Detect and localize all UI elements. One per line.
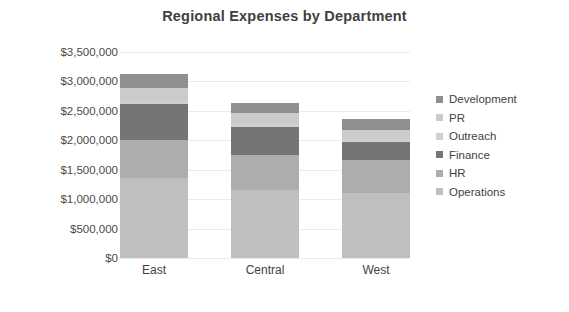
y-axis-tick-label: $2,000,000 [6, 134, 118, 146]
bar-segment-pr[interactable] [231, 113, 299, 124]
bar-segment-hr[interactable] [120, 140, 188, 178]
legend-label: Outreach [449, 130, 496, 142]
legend-swatch-icon [436, 188, 443, 195]
bar-west[interactable] [342, 119, 410, 258]
legend-swatch-icon [436, 96, 443, 103]
y-axis-tick-label: $3,500,000 [6, 46, 118, 58]
legend-label: HR [449, 167, 466, 179]
bar-segment-pr[interactable] [342, 130, 410, 139]
bar-segment-operations[interactable] [120, 178, 188, 258]
bar-segment-operations[interactable] [231, 190, 299, 258]
legend-swatch-icon [436, 151, 443, 158]
bar-segment-hr[interactable] [342, 160, 410, 193]
bar-segment-finance[interactable] [342, 142, 410, 160]
x-axis-label-east: East [109, 263, 199, 277]
gridline [120, 258, 410, 259]
y-axis-tick-label: $1,000,000 [6, 193, 118, 205]
y-axis-tick-label: $500,000 [6, 223, 118, 235]
plot-area [120, 52, 410, 258]
stacked-bar-chart: Regional Expenses by Department $0$500,0… [0, 0, 569, 312]
bar-segment-development[interactable] [120, 74, 188, 87]
bar-segment-pr[interactable] [120, 88, 188, 101]
chart-legend: DevelopmentPROutreachFinanceHROperations [436, 90, 517, 201]
legend-label: Finance [449, 149, 490, 161]
legend-item-finance[interactable]: Finance [436, 146, 517, 165]
bar-segment-development[interactable] [342, 119, 410, 129]
legend-item-development[interactable]: Development [436, 90, 517, 109]
y-axis-tick-label: $0 [6, 252, 118, 264]
legend-swatch-icon [436, 133, 443, 140]
bar-segment-finance[interactable] [120, 104, 188, 140]
legend-item-pr[interactable]: PR [436, 109, 517, 128]
legend-label: PR [449, 112, 465, 124]
legend-swatch-icon [436, 170, 443, 177]
bar-segment-hr[interactable] [231, 155, 299, 190]
legend-item-operations[interactable]: Operations [436, 183, 517, 202]
bar-segment-finance[interactable] [231, 127, 299, 155]
y-axis-tick-label: $3,000,000 [6, 75, 118, 87]
legend-swatch-icon [436, 114, 443, 121]
legend-label: Development [449, 93, 517, 105]
gridline [120, 52, 410, 53]
x-axis-label-central: Central [220, 263, 310, 277]
bar-central[interactable] [231, 103, 299, 258]
y-axis-tick-label: $2,500,000 [6, 105, 118, 117]
bar-east[interactable] [120, 74, 188, 258]
legend-item-hr[interactable]: HR [436, 164, 517, 183]
y-axis-tick-label: $1,500,000 [6, 164, 118, 176]
legend-label: Operations [449, 186, 505, 198]
x-axis-label-west: West [331, 263, 421, 277]
y-axis: $0$500,000$1,000,000$1,500,000$2,000,000… [0, 0, 118, 312]
legend-item-outreach[interactable]: Outreach [436, 127, 517, 146]
x-axis-labels: EastCentralWest [120, 263, 410, 283]
bar-segment-development[interactable] [231, 103, 299, 113]
bar-segment-operations[interactable] [342, 193, 410, 258]
